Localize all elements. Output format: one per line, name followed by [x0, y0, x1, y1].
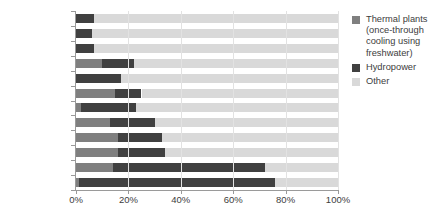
bar-row[interactable] — [76, 29, 338, 38]
bar-row[interactable] — [76, 163, 338, 172]
bar-row[interactable] — [76, 148, 338, 157]
bar-segment[interactable] — [136, 103, 338, 112]
y-tick-mark — [71, 26, 75, 27]
bar-segment[interactable] — [162, 133, 338, 142]
y-tick-mark — [71, 190, 75, 191]
y-tick-mark — [71, 130, 75, 131]
legend-item[interactable]: Hydropower — [352, 62, 440, 73]
bar-row[interactable] — [76, 74, 338, 83]
bar-segment[interactable] — [118, 133, 163, 142]
gridline — [181, 11, 182, 190]
legend-label: Thermal plants (once-through cooling usi… — [366, 14, 440, 59]
legend-item[interactable]: Other — [352, 76, 440, 87]
x-tick-label: 0% — [69, 194, 83, 205]
bar-row[interactable] — [76, 118, 338, 127]
bar-segment[interactable] — [113, 163, 265, 172]
y-tick-mark — [71, 175, 75, 176]
x-tick-label: 100% — [326, 194, 350, 205]
chart-legend: Thermal plants (once-through cooling usi… — [352, 14, 440, 90]
bar-segment[interactable] — [275, 178, 338, 187]
x-tick-label: 80% — [276, 194, 295, 205]
y-tick-mark — [71, 56, 75, 57]
bar-row[interactable] — [76, 44, 338, 53]
bar-segment[interactable] — [121, 74, 338, 83]
bar-segment[interactable] — [142, 89, 339, 98]
legend-swatch-other — [352, 78, 360, 86]
bar-row[interactable] — [76, 14, 338, 23]
bar-segment[interactable] — [94, 14, 338, 23]
bar-segment[interactable] — [76, 133, 118, 142]
bar-row[interactable] — [76, 59, 338, 68]
bar-segment[interactable] — [76, 59, 102, 68]
bar-segment[interactable] — [76, 118, 110, 127]
y-tick-mark — [71, 11, 75, 12]
bar-segment[interactable] — [155, 118, 338, 127]
x-tick-label: 40% — [171, 194, 190, 205]
legend-item[interactable]: Thermal plants (once-through cooling usi… — [352, 14, 440, 59]
bar-segment[interactable] — [79, 178, 276, 187]
bar-segment[interactable] — [110, 118, 155, 127]
bar-segment[interactable] — [118, 148, 165, 157]
gridline — [128, 11, 129, 190]
y-tick-mark — [71, 86, 75, 87]
bar-row[interactable] — [76, 178, 338, 187]
bar-segment[interactable] — [76, 163, 113, 172]
gridline — [338, 11, 339, 190]
bar-segment[interactable] — [134, 59, 338, 68]
legend-swatch-thermal — [352, 16, 360, 24]
bar-row[interactable] — [76, 133, 338, 142]
bar-segment[interactable] — [76, 148, 118, 157]
legend-label: Hydropower — [366, 62, 440, 73]
legend-swatch-hydropower — [352, 64, 360, 72]
y-tick-mark — [71, 71, 75, 72]
y-tick-mark — [71, 41, 75, 42]
bar-segment[interactable] — [76, 44, 94, 53]
plot-area — [76, 11, 338, 190]
bar-segment[interactable] — [165, 148, 338, 157]
gridline — [233, 11, 234, 190]
y-tick-mark — [71, 160, 75, 161]
y-tick-mark — [71, 115, 75, 116]
y-tick-mark — [71, 101, 75, 102]
x-tick-label: 60% — [224, 194, 243, 205]
x-axis-line — [75, 190, 339, 191]
y-tick-mark — [71, 145, 75, 146]
bar-segment[interactable] — [94, 44, 338, 53]
legend-label: Other — [366, 76, 440, 87]
bar-segment[interactable] — [76, 89, 115, 98]
bar-segment[interactable] — [76, 29, 92, 38]
bar-row[interactable] — [76, 89, 338, 98]
bar-row[interactable] — [76, 103, 338, 112]
bar-segment[interactable] — [265, 163, 338, 172]
bar-segment[interactable] — [76, 74, 121, 83]
gridline — [286, 11, 287, 190]
bar-segment[interactable] — [76, 14, 94, 23]
x-tick-label: 20% — [119, 194, 138, 205]
chart-root: 0%20%40%60%80%100% South AfricaMiddle Ea… — [0, 0, 442, 220]
